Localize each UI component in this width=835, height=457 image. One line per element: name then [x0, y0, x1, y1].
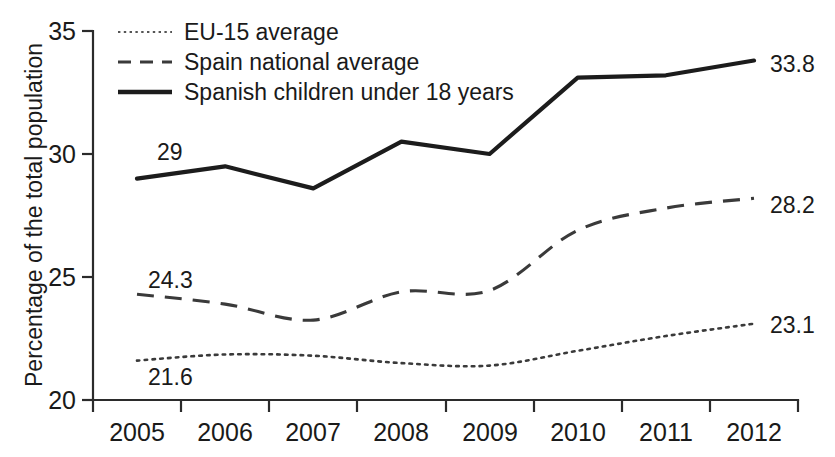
line-chart: 35 30 25 20 2005 2006 2007 2008 2009 201…	[0, 0, 835, 457]
data-label-spain-start: 24.3	[148, 267, 193, 293]
y-axis-tick-label: 25	[48, 263, 76, 291]
x-axis-tick-label: 2006	[197, 418, 253, 446]
series-line-eu-15-average	[137, 324, 754, 367]
x-axis-tick-label: 2011	[639, 418, 693, 446]
data-label-children-start: 29	[157, 139, 183, 165]
x-axis-tick-label: 2012	[726, 418, 782, 446]
legend: EU-15 average Spain national average Spa…	[118, 19, 514, 105]
legend-item-spanish-children-under-18[interactable]: Spanish children under 18 years	[118, 79, 514, 105]
x-axis-tick-label: 2007	[285, 418, 341, 446]
y-axis-tick-label: 35	[48, 17, 76, 45]
data-label-eu-start: 21.6	[148, 364, 193, 390]
y-axis-tick-label: 30	[48, 140, 76, 168]
x-axis-tick-label: 2005	[109, 418, 165, 446]
legend-item-label: Spain national average	[184, 49, 419, 75]
legend-item-label: Spanish children under 18 years	[184, 79, 514, 105]
x-axis-tick-label: 2010	[550, 418, 606, 446]
y-axis-tick-label: 20	[48, 386, 76, 414]
chart-canvas: 35 30 25 20 2005 2006 2007 2008 2009 201…	[0, 0, 835, 457]
data-label-children-end: 33.8	[770, 51, 815, 77]
legend-item-spain-national-average[interactable]: Spain national average	[118, 49, 419, 75]
series-line-spain-national-average	[137, 198, 754, 320]
legend-item-label: EU-15 average	[184, 19, 339, 45]
x-axis-tick-label: 2008	[373, 418, 429, 446]
data-label-spain-end: 28.2	[770, 192, 815, 218]
y-axis-title: Percentage of the total population	[21, 43, 47, 387]
data-label-eu-end: 23.1	[770, 312, 815, 338]
legend-item-eu-15-average[interactable]: EU-15 average	[118, 19, 339, 45]
series-group	[137, 61, 754, 367]
x-axis-tick-label: 2009	[462, 418, 518, 446]
